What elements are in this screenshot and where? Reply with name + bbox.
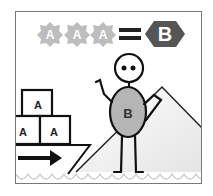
water-waves (16, 174, 202, 179)
hexagon-letter: B (158, 23, 172, 45)
badge-letter: A (46, 28, 55, 42)
box-letter: A (34, 99, 42, 111)
badge-letter: A (99, 28, 108, 42)
gear-badge-icon: A (90, 22, 116, 47)
hexagon-badge-icon: B (145, 21, 185, 47)
character-eye (122, 66, 127, 71)
illustration-frame: A A A B A A A (15, 11, 202, 184)
equals-icon (119, 28, 141, 40)
equation-left: A A A (37, 22, 116, 47)
gear-badge-icon: A (64, 22, 90, 47)
arrow-right-icon (18, 150, 62, 166)
character-arm-left (96, 80, 112, 102)
box-letter: A (50, 126, 58, 138)
box-letter: A (19, 126, 27, 138)
badge-letter: A (73, 28, 82, 42)
character-head (115, 54, 143, 82)
body-letter: B (123, 106, 132, 121)
illustration-canvas: A A A B A A A (16, 12, 202, 184)
gear-badge-icon: A (37, 22, 63, 47)
character-eye (131, 66, 136, 71)
